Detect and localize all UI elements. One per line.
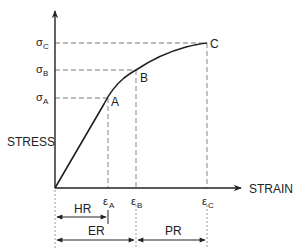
svg-text:A: A (43, 97, 49, 106)
point-label-c: C (210, 37, 219, 51)
svg-text:σ: σ (36, 91, 43, 103)
sigma-c-label: σ C (36, 36, 49, 51)
stress-strain-curve (55, 43, 207, 188)
svg-text:B: B (137, 201, 142, 210)
point-label-b: B (140, 71, 148, 85)
svg-text:σ: σ (36, 63, 43, 75)
point-label-a: A (111, 95, 119, 109)
stress-strain-diagram: A B C σ C σ B σ A STRESS STRAIN ε A ε B … (0, 0, 297, 249)
svg-text:B: B (43, 69, 48, 78)
epsilon-a-label: ε A (103, 195, 115, 210)
svg-text:C: C (208, 201, 214, 210)
svg-text:A: A (109, 201, 115, 210)
pr-dimension: PR (138, 224, 205, 240)
hr-label: HR (74, 202, 92, 216)
hr-dimension: HR (57, 202, 108, 224)
epsilon-b-label: ε B (131, 195, 142, 210)
stress-guides (55, 43, 207, 98)
svg-text:ε: ε (131, 195, 136, 207)
svg-text:C: C (43, 42, 49, 51)
svg-text:σ: σ (36, 36, 43, 48)
pr-label: PR (165, 224, 182, 238)
er-dimension: ER (57, 224, 134, 240)
y-axis-label: STRESS (7, 135, 55, 149)
svg-text:ε: ε (103, 195, 108, 207)
sigma-a-label: σ A (36, 91, 49, 106)
epsilon-c-label: ε C (202, 195, 214, 210)
svg-text:ε: ε (202, 195, 207, 207)
er-label: ER (88, 224, 105, 238)
sigma-b-label: σ B (36, 63, 48, 78)
x-axis-label: STRAIN (249, 182, 293, 196)
strain-guides (108, 43, 207, 188)
